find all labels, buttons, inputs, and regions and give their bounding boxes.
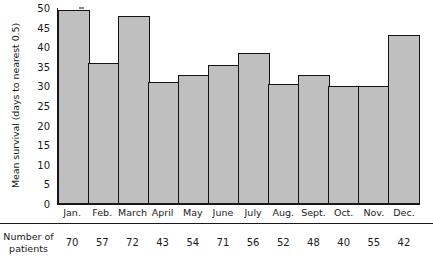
y-axis-tick-labels: 05101520253035404550: [28, 8, 50, 208]
patients-count-value: 70: [57, 236, 87, 250]
patients-row-label-line1: Number of: [2, 231, 55, 243]
y-axis-title: Mean survival (days to nearest 0.5): [4, 3, 26, 208]
patients-count-value: 71: [208, 236, 238, 250]
y-axis-tick-label: 15: [37, 140, 50, 151]
x-axis-tick-label: May: [178, 206, 208, 220]
x-axis-tick-label: Aug.: [268, 206, 298, 220]
patients-count-value: 56: [238, 236, 268, 250]
x-axis-tick-label: Sept.: [298, 206, 328, 220]
bar: [328, 86, 360, 204]
x-axis-tick-label: March: [117, 206, 147, 220]
x-axis-tick-label: Feb.: [87, 206, 117, 220]
bar: [148, 82, 180, 204]
patients-count-value: 72: [117, 236, 147, 250]
patients-count-row: 705772435471565248405542: [57, 236, 419, 250]
patients-count-value: 52: [268, 236, 298, 250]
bar: [178, 75, 210, 204]
x-axis-category-labels: Jan.Feb.MarchAprilMayJuneJulyAug.Sept.Oc…: [57, 206, 419, 220]
x-axis-tick-label: April: [148, 206, 178, 220]
patients-count-value: 57: [87, 236, 117, 250]
bar: [358, 86, 390, 204]
patients-count-value: 42: [389, 236, 419, 250]
bar: [118, 16, 150, 204]
y-axis-tick-label: 50: [37, 3, 50, 14]
y-axis-tick-label: 20: [37, 120, 50, 131]
bar: [88, 63, 120, 204]
bar: [238, 53, 270, 204]
patients-count-value: 43: [148, 236, 178, 250]
bar: [388, 35, 420, 204]
patients-row-label-line2: patients: [2, 243, 55, 255]
y-axis-tick-label: 30: [37, 81, 50, 92]
patients-count-value: 48: [298, 236, 328, 250]
patients-row-label: Number of patients: [2, 231, 55, 254]
x-axis-tick-label: Dec.: [389, 206, 419, 220]
x-axis-tick-label: July: [238, 206, 268, 220]
bar: [298, 75, 330, 204]
x-axis-tick-label: Jan.: [57, 206, 87, 220]
bar: [268, 84, 300, 204]
footer-separator-rule: [0, 223, 433, 224]
y-axis-tick-label: 0: [44, 199, 50, 210]
y-axis-tick-label: 5: [44, 179, 50, 190]
x-axis-tick-label: Nov.: [359, 206, 389, 220]
y-axis-tick-label: 45: [37, 22, 50, 33]
plot-area: [57, 8, 420, 204]
bar-chart-figure: Mean survival (days to nearest 0.5) 0510…: [0, 0, 433, 275]
bar-series: [58, 8, 420, 204]
y-axis-tick-label: 25: [37, 101, 50, 112]
x-axis-tick-label: June: [208, 206, 238, 220]
x-axis-tick-label: Oct.: [329, 206, 359, 220]
patients-count-value: 55: [359, 236, 389, 250]
y-axis-tick-label: 10: [37, 159, 50, 170]
patients-count-value: 54: [178, 236, 208, 250]
y-axis-tick-label: 40: [37, 42, 50, 53]
y-axis-tick-label: 35: [37, 61, 50, 72]
x-axis-line: [57, 203, 420, 205]
bar: [208, 65, 240, 204]
patients-count-value: 40: [329, 236, 359, 250]
bar: [58, 10, 90, 204]
